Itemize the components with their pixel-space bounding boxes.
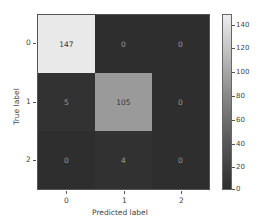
y-tick-1: 1	[26, 97, 31, 106]
matrix-cell-1-0: 5	[38, 73, 95, 131]
colorbar	[222, 14, 232, 190]
confusion-matrix-plot: 1470051050040	[37, 14, 210, 190]
colorbar-tick-20: 20	[236, 163, 245, 171]
colorbar-tick-100: 100	[236, 68, 249, 76]
x-tick-0: 0	[64, 196, 69, 205]
colorbar-tick-140: 140	[236, 21, 249, 29]
x-tick-2: 2	[179, 196, 184, 205]
matrix-cell-2-2: 0	[152, 131, 209, 189]
colorbar-tick-40: 40	[236, 140, 245, 148]
x-tick-1: 1	[122, 196, 127, 205]
y-axis-label: True label	[12, 87, 21, 127]
colorbar-tick-80: 80	[236, 92, 245, 100]
matrix-cell-2-0: 0	[38, 131, 95, 189]
matrix-cell-0-2: 0	[152, 15, 209, 73]
y-tick-0: 0	[26, 38, 31, 47]
matrix-cell-2-1: 4	[95, 131, 152, 189]
matrix-cell-0-0: 147	[38, 15, 95, 73]
colorbar-tick-60: 60	[236, 116, 245, 124]
x-axis-label: Predicted label	[92, 208, 148, 217]
colorbar-tick-120: 120	[236, 44, 249, 52]
matrix-cell-0-1: 0	[95, 15, 152, 73]
y-tick-2: 2	[26, 155, 31, 164]
colorbar-tick-0: 0	[236, 185, 240, 193]
matrix-cell-1-1: 105	[95, 73, 152, 131]
matrix-cell-1-2: 0	[152, 73, 209, 131]
